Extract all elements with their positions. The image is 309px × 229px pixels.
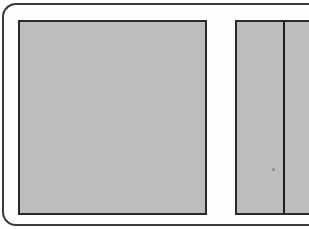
left-panel-label [20, 22, 21, 23]
right-panel-divider [283, 22, 285, 213]
right-panel [235, 20, 309, 215]
left-panel [18, 20, 207, 215]
figure-canvas [0, 0, 309, 229]
print-speck [272, 168, 275, 171]
right-panel-label [237, 22, 238, 23]
